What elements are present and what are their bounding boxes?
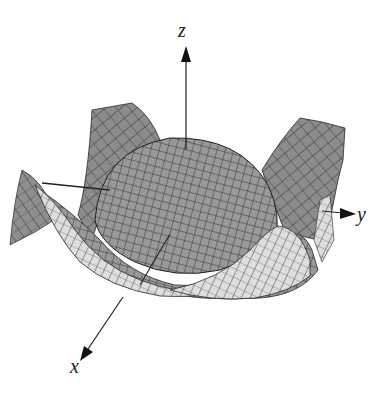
x-axis-arrowhead — [80, 346, 93, 361]
z-axis-label: z — [178, 20, 186, 40]
x-axis-line — [86, 297, 123, 352]
y-axis-arrowhead — [340, 208, 356, 219]
z-axis-arrowhead — [181, 46, 191, 62]
x-axis-label: x — [70, 356, 79, 376]
surface-plot-svg — [0, 0, 372, 394]
y-axis-label: y — [357, 204, 366, 224]
surface-plot-figure: z y x — [0, 0, 372, 394]
